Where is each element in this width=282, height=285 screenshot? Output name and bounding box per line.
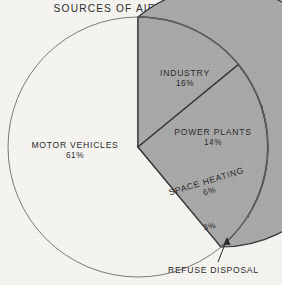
slice-label-power-plants-pct: 14%: [167, 138, 259, 148]
slice-label-industry-name: INDUSTRY: [160, 68, 210, 78]
slice-label-industry: INDUSTRY 16%: [147, 68, 223, 89]
slice-label-motor-vehicles-name: MOTOR VEHICLES: [31, 140, 118, 150]
slice-label-refuse-disposal-name: REFUSE DISPOSAL: [168, 265, 280, 276]
slice-label-power-plants-name: POWER PLANTS: [174, 127, 251, 137]
slice-label-power-plants: POWER PLANTS 14%: [167, 127, 259, 148]
slice-label-motor-vehicles-pct: 61%: [27, 151, 123, 161]
slice-label-industry-pct: 16%: [147, 79, 223, 89]
pie-chart-figure: SOURCES OF AIR POLLUTION MOTOR VEHICLES …: [0, 0, 282, 285]
slice-label-motor-vehicles: MOTOR VEHICLES 61%: [27, 140, 123, 161]
